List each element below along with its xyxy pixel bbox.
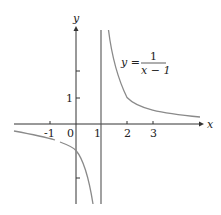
function-label: y = 1 x − 1 (120, 50, 170, 77)
x-axis-label: x (207, 118, 214, 131)
graph: x y -1 0 1 2 3 1 y = 1 x − 1 (0, 0, 221, 215)
y-axis-arrow-icon (74, 26, 79, 31)
y-axis-label: y (72, 12, 80, 25)
x-tick-label: 1 (94, 127, 101, 140)
equation-numerator: 1 (150, 50, 157, 63)
svg-text:y =: y = (120, 56, 140, 69)
equation-denominator: x − 1 (141, 64, 170, 77)
x-tick-label: 0 (67, 127, 74, 140)
x-axis-arrow-icon (199, 122, 204, 127)
x-tick-label: 3 (150, 127, 157, 140)
x-tick-label: 2 (124, 127, 131, 140)
y-tick-label: 1 (66, 92, 73, 105)
